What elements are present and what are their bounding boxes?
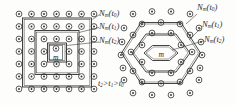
- paren-close-hex-t1: ): [220, 19, 223, 29]
- label-square-ring-t0: Nm(t0): [99, 9, 119, 18]
- label-hex-ring-t1: Nm(t1): [202, 20, 222, 29]
- time-ordering-annotation: t2>t1>t0: [98, 80, 124, 88]
- paren-close-square-t2: ): [117, 35, 120, 45]
- label-square-ring-t2: Nm(t2): [99, 36, 119, 45]
- hex-center-label-m-text: m: [159, 50, 164, 59]
- square-center-label-m: m: [53, 53, 58, 62]
- paren-close-hex-t0: ): [215, 2, 218, 12]
- label-square-ring-t1: Nm(t1): [99, 22, 119, 31]
- label-hex-ring-t0: Nm(t0): [197, 3, 217, 12]
- square-center-label-m-text: m: [53, 53, 58, 62]
- leader-line-hex-t2: [172, 41, 203, 50]
- label-hex-ring-t2: Nm(t2): [204, 35, 224, 44]
- leader-line-square-t2: [67, 42, 100, 46]
- figure-neighborhood-growth: Nm(t0) Nm(t1) Nm(t2) t2>t1>t0 m Nm(t0) N…: [0, 0, 236, 105]
- hex-center-label-m: m: [159, 50, 164, 59]
- paren-close-hex-t2: ): [222, 34, 225, 44]
- paren-close-square-t1: ): [117, 21, 120, 31]
- ordering-t0-sub: 0: [121, 82, 124, 88]
- paren-close-square-t0: ): [117, 8, 120, 18]
